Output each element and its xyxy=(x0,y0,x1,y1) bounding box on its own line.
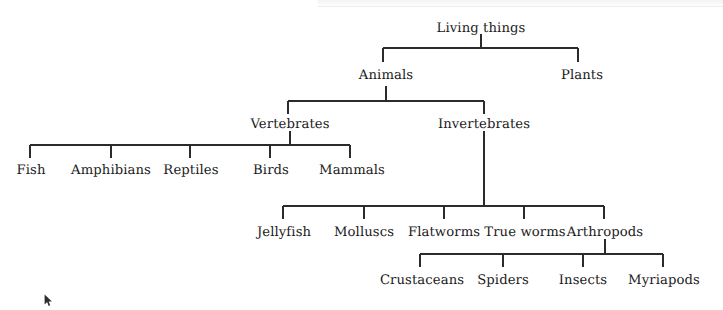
node-jellyfish[interactable]: Jellyfish xyxy=(257,225,311,240)
node-fish[interactable]: Fish xyxy=(16,163,45,178)
node-vertebrates[interactable]: Vertebrates xyxy=(250,117,329,132)
node-animals[interactable]: Animals xyxy=(359,68,413,83)
tree-connector-lines xyxy=(0,0,723,310)
node-arthropods[interactable]: Arthropods xyxy=(567,225,643,240)
node-insects[interactable]: Insects xyxy=(559,273,607,288)
node-birds[interactable]: Birds xyxy=(253,163,289,178)
node-true-worms[interactable]: True worms xyxy=(484,225,565,240)
node-mammals[interactable]: Mammals xyxy=(319,163,385,178)
node-crustaceans[interactable]: Crustaceans xyxy=(380,273,464,288)
node-amphibians[interactable]: Amphibians xyxy=(71,163,151,178)
diagram-canvas: Living things Animals Plants Vertebrates… xyxy=(0,0,723,310)
node-invertebrates[interactable]: Invertebrates xyxy=(438,117,530,132)
node-molluscs[interactable]: Molluscs xyxy=(334,225,394,240)
node-plants[interactable]: Plants xyxy=(561,68,603,83)
mouse-pointer-icon xyxy=(44,294,53,307)
top-edge-rule xyxy=(318,6,723,7)
node-myriapods[interactable]: Myriapods xyxy=(628,273,700,288)
node-living-things[interactable]: Living things xyxy=(437,21,526,36)
node-reptiles[interactable]: Reptiles xyxy=(163,163,218,178)
node-spiders[interactable]: Spiders xyxy=(477,273,529,288)
node-flatworms[interactable]: Flatworms xyxy=(408,225,480,240)
